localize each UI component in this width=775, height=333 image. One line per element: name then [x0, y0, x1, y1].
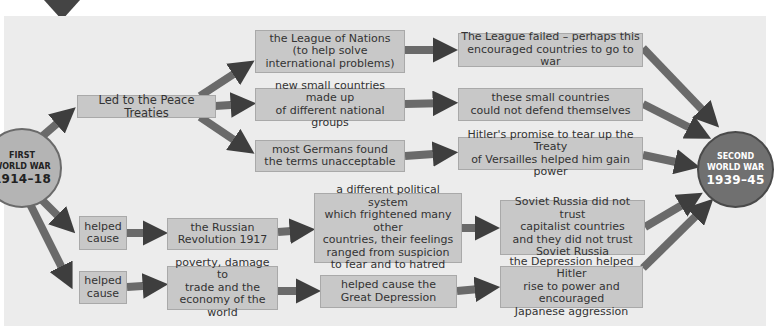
- arrow-smallcountries-to-defend: [405, 103, 448, 104]
- end-node-dates: 1939–45: [706, 173, 764, 188]
- box-poverty: poverty, damage to trade and the economy…: [167, 266, 278, 310]
- box-great-depression: helped cause the Great Depression: [320, 275, 457, 308]
- box-political-system: a different political system which frigh…: [314, 193, 462, 263]
- arrow-depression-to-hitler: [457, 288, 490, 291]
- box-helped-cause-1: helped cause: [79, 216, 127, 250]
- end-node-line2: WORLD WAR: [707, 162, 764, 173]
- box-russian-revolution: the Russian Revolution 1917: [167, 218, 278, 250]
- box-league-of-nations: the League of Nations (to help solve int…: [255, 30, 405, 73]
- arrow-treaties-to-smallcountries: [215, 104, 246, 106]
- arrow-helped2-to-poverty: [127, 285, 158, 287]
- arrow-revolution-to-political: [278, 230, 305, 232]
- arrow-ww1-to-helped1: [40, 198, 68, 226]
- box-hitler-promise: Hitler's promise to tear up the Treaty o…: [458, 137, 643, 170]
- arrow-treaties-to-germans: [200, 117, 246, 148]
- start-node-line1: FIRST: [9, 150, 35, 161]
- box-depression-hitler: the Depression helped Hitler rise to pow…: [500, 266, 643, 308]
- box-league-failed: The League failed – perhaps this encoura…: [458, 33, 643, 67]
- box-new-small-countries: new small countries made up of different…: [255, 88, 405, 121]
- box-peace-treaties: Led to the Peace Treaties: [77, 95, 216, 118]
- box-helped-cause-2: helped cause: [79, 271, 127, 304]
- arrow-treaties-to-league: [200, 66, 246, 96]
- second-world-war-node: SECOND WORLD WAR 1939–45: [697, 131, 774, 208]
- box-cannot-defend: these small countries could not defend t…: [458, 88, 643, 121]
- arrow-germans-to-hitler: [405, 153, 448, 156]
- start-node-dates: 1914–18: [0, 172, 51, 187]
- start-node-line2: WORLD WAR: [0, 161, 51, 172]
- end-node-line1: SECOND: [717, 151, 754, 162]
- box-soviet-distrust: Soviet Russia did not trust capitalist c…: [500, 200, 645, 255]
- arrow-defend-to-ww2: [643, 104, 702, 134]
- box-germans-unacceptable: most Germans found the terms unacceptabl…: [255, 140, 405, 172]
- arrow-hitler-to-ww2: [643, 155, 690, 165]
- arrow-depressionhitler-to-ww2: [643, 206, 706, 268]
